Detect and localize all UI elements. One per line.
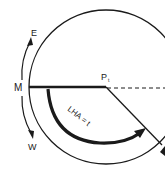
- label-pole-subscript: t: [108, 77, 110, 83]
- lha-arc: [48, 89, 140, 143]
- celestial-diagram: E M W P t LHA = t: [0, 0, 165, 175]
- label-east: E: [31, 28, 37, 38]
- label-lha: LHA = t: [66, 104, 93, 128]
- arrow-west-icon: [28, 130, 34, 139]
- label-west: W: [28, 142, 37, 152]
- edge-arrow-icon: [160, 146, 165, 156]
- label-pole: P: [101, 72, 107, 82]
- label-meridian: M: [14, 82, 22, 93]
- east-west-arc: [22, 42, 30, 80]
- arrow-east-icon: [27, 37, 33, 46]
